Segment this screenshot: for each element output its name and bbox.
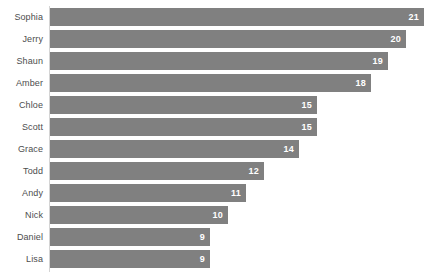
bar-row: Nick10: [0, 206, 436, 224]
bar-track: 18: [50, 74, 371, 92]
bar-track: 20: [50, 30, 406, 48]
bar-value-label: 18: [356, 74, 366, 92]
category-label: Jerry: [0, 30, 43, 48]
bar-row: Todd12: [0, 162, 436, 180]
bar-value-label: 19: [373, 52, 383, 70]
bar-row: Jerry20: [0, 30, 436, 48]
bar[interactable]: 10: [50, 206, 228, 224]
bar-value-label: 10: [213, 206, 223, 224]
category-label: Scott: [0, 118, 43, 136]
bar-chart: Sophia21Jerry20Shaun19Amber18Chloe15Scot…: [0, 0, 436, 280]
bar[interactable]: 14: [50, 140, 299, 158]
bar-value-label: 15: [302, 96, 312, 114]
bar-value-label: 12: [249, 162, 259, 180]
category-label: Shaun: [0, 52, 43, 70]
category-label: Andy: [0, 184, 43, 202]
bar[interactable]: 9: [50, 228, 210, 246]
category-label: Sophia: [0, 8, 43, 26]
bar-row: Chloe15: [0, 96, 436, 114]
category-label: Grace: [0, 140, 43, 158]
bar-row: Andy11: [0, 184, 436, 202]
bar-row: Daniel9: [0, 228, 436, 246]
bar[interactable]: 9: [50, 250, 210, 268]
bar[interactable]: 15: [50, 118, 317, 136]
bar-track: 9: [50, 250, 210, 268]
bar-track: 10: [50, 206, 228, 224]
bar-row: Lisa9: [0, 250, 436, 268]
bar-row: Shaun19: [0, 52, 436, 70]
bar[interactable]: 12: [50, 162, 264, 180]
bar-row: Scott15: [0, 118, 436, 136]
bar-value-label: 20: [391, 30, 401, 48]
bar[interactable]: 19: [50, 52, 388, 70]
category-label: Chloe: [0, 96, 43, 114]
bar-track: 11: [50, 184, 246, 202]
bar[interactable]: 21: [50, 8, 424, 26]
bar-value-label: 21: [409, 8, 419, 26]
bar-track: 9: [50, 228, 210, 246]
category-label: Nick: [0, 206, 43, 224]
bar-value-label: 9: [200, 228, 205, 246]
bar[interactable]: 15: [50, 96, 317, 114]
bar[interactable]: 20: [50, 30, 406, 48]
bar[interactable]: 11: [50, 184, 246, 202]
bar-value-label: 14: [284, 140, 294, 158]
bar-track: 21: [50, 8, 424, 26]
plot-area: Sophia21Jerry20Shaun19Amber18Chloe15Scot…: [0, 0, 436, 280]
bar[interactable]: 18: [50, 74, 371, 92]
bar-row: Amber18: [0, 74, 436, 92]
category-label: Daniel: [0, 228, 43, 246]
category-label: Todd: [0, 162, 43, 180]
bar-value-label: 11: [231, 184, 241, 202]
bar-row: Sophia21: [0, 8, 436, 26]
bar-track: 15: [50, 118, 317, 136]
bar-track: 15: [50, 96, 317, 114]
bar-track: 19: [50, 52, 388, 70]
bar-row: Grace14: [0, 140, 436, 158]
category-label: Lisa: [0, 250, 43, 268]
bar-track: 12: [50, 162, 264, 180]
bar-value-label: 9: [200, 250, 205, 268]
bar-track: 14: [50, 140, 299, 158]
category-label: Amber: [0, 74, 43, 92]
bar-value-label: 15: [302, 118, 312, 136]
